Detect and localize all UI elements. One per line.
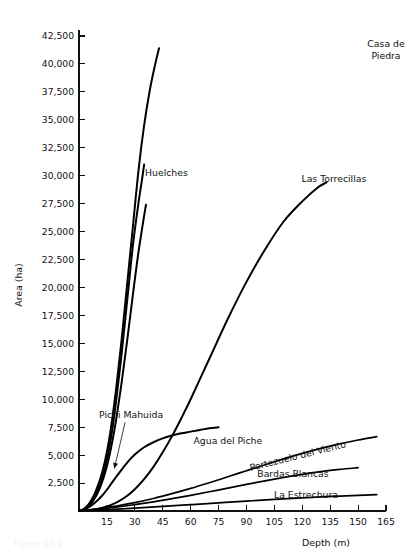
y-tick-label: 15,000 bbox=[42, 338, 74, 349]
x-tick-label: 15 bbox=[101, 516, 113, 527]
series-labels: Casa dePiedraHuelchesLas TorrecillasPich… bbox=[99, 38, 405, 500]
y-tick-label: 42,500 bbox=[42, 30, 74, 41]
x-tick-label: 60 bbox=[185, 516, 197, 527]
x-tick-label: 135 bbox=[321, 516, 339, 527]
y-tick-label: 37,500 bbox=[42, 86, 74, 97]
y-tick-label: 7,500 bbox=[48, 422, 74, 433]
y-axis-title: Area (ha) bbox=[13, 263, 24, 307]
series-label: Huelches bbox=[145, 167, 188, 178]
y-tick-label: 40,000 bbox=[42, 58, 74, 69]
figure-root: 2,5005,0007,50010,00012,50015,00017,5002… bbox=[0, 0, 411, 560]
x-tick-label: 105 bbox=[266, 516, 284, 527]
figure-caption-partial: Figure 10.2 bbox=[14, 540, 63, 549]
x-tick-label: 75 bbox=[213, 516, 225, 527]
x-tick-label: 30 bbox=[129, 516, 141, 527]
series-label: Bardas Blancas bbox=[257, 468, 328, 479]
x-tick-label: 120 bbox=[293, 516, 311, 527]
series-curve bbox=[79, 48, 159, 511]
pichi-mahuida-leader-line bbox=[114, 422, 125, 468]
line-chart: 2,5005,0007,50010,00012,50015,00017,5002… bbox=[0, 0, 411, 560]
series-label: Pichi Mahuida bbox=[99, 409, 163, 420]
y-tick-label: 17,500 bbox=[42, 310, 74, 321]
y-tick-label: 5,000 bbox=[48, 450, 74, 461]
y-tick-label: 35,000 bbox=[42, 114, 74, 125]
y-tick-label: 20,000 bbox=[42, 282, 74, 293]
series-label: Piedra bbox=[371, 50, 400, 61]
series-label: Las Torrecillas bbox=[301, 173, 366, 184]
pichi-mahuida-arrowhead bbox=[113, 463, 118, 469]
y-tick-label: 32,500 bbox=[42, 142, 74, 153]
series-curve bbox=[79, 205, 146, 511]
series-label: La Estrechura bbox=[274, 489, 338, 500]
x-axis-title: Depth (m) bbox=[302, 537, 350, 548]
x-tick-label: 90 bbox=[241, 516, 253, 527]
y-tick-label: 27,500 bbox=[42, 198, 74, 209]
y-tick-label: 2,500 bbox=[48, 477, 74, 488]
series-label: Casa de bbox=[367, 38, 405, 49]
y-tick-label: 22,500 bbox=[42, 254, 74, 265]
y-tick-label: 12,500 bbox=[42, 366, 74, 377]
series-label: Agua del Piche bbox=[194, 435, 263, 446]
x-tick-label: 150 bbox=[349, 516, 367, 527]
x-tick-label: 45 bbox=[157, 516, 169, 527]
x-tick-label: 165 bbox=[377, 516, 395, 527]
y-tick-label: 30,000 bbox=[42, 170, 74, 181]
y-tick-label: 10,000 bbox=[42, 394, 74, 405]
y-tick-label: 25,000 bbox=[42, 226, 74, 237]
